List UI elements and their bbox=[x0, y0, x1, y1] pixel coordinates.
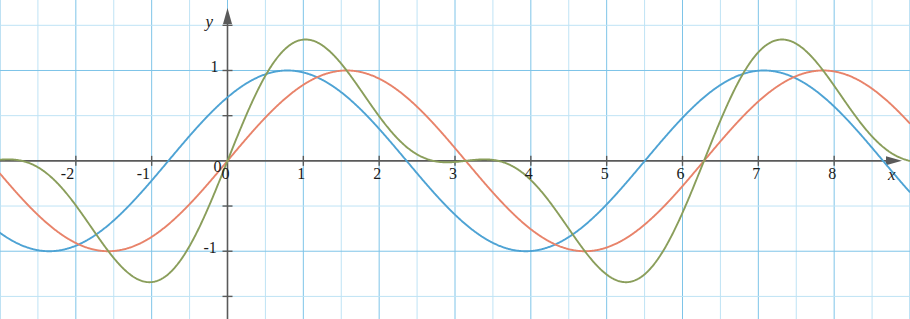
x-tick-label-8: 8 bbox=[828, 165, 836, 183]
x-tick-label-4: 4 bbox=[525, 165, 533, 183]
x-tick-label-5: 5 bbox=[601, 165, 609, 183]
y-tick-label-neg1: -1 bbox=[204, 239, 217, 257]
x-tick-label-7: 7 bbox=[752, 165, 760, 183]
x-axis-label: x bbox=[888, 165, 896, 185]
x-tick-label-neg2: -2 bbox=[61, 165, 74, 183]
chart-container: -2-101234567810-1yx bbox=[0, 0, 910, 319]
x-tick-label-2: 2 bbox=[373, 165, 381, 183]
y-tick-label-1: 1 bbox=[211, 58, 219, 76]
x-tick-label-0: 0 bbox=[222, 165, 230, 183]
x-tick-label-neg1: -1 bbox=[137, 165, 150, 183]
y-axis-label: y bbox=[206, 12, 214, 32]
x-tick-label-1: 1 bbox=[297, 165, 305, 183]
y-axis-arrowhead bbox=[223, 8, 232, 24]
x-tick-label-6: 6 bbox=[677, 165, 685, 183]
x-tick-label-3: 3 bbox=[449, 165, 457, 183]
trigonometric-graph bbox=[0, 0, 910, 319]
y-tick-label-0: 0 bbox=[214, 158, 222, 176]
